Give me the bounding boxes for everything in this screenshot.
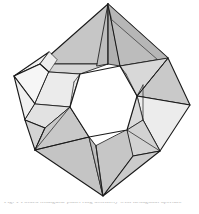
polyhedron-illustration — [0, 0, 199, 214]
figure-container: Fig. 1 Folded triangular panel ring asse… — [0, 0, 199, 214]
